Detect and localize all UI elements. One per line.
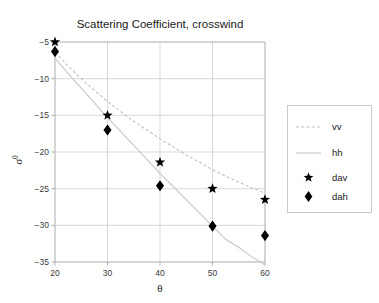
y-tick-label: −10 (35, 74, 50, 84)
y-tick-label: −5 (39, 37, 49, 47)
x-tick-label: 60 (260, 268, 270, 278)
legend-label-hh: hh (332, 147, 343, 158)
x-tick-label: 30 (103, 268, 113, 278)
y-tick-label: −30 (35, 220, 50, 230)
legend-box (288, 106, 372, 213)
legend: vvhhdavdah (288, 106, 372, 213)
legend-label-dah: dah (332, 191, 348, 202)
scattering-coefficient-chart: Scattering Coefficient, crosswind −5−10−… (0, 0, 379, 303)
y-tick-label: −15 (35, 110, 50, 120)
legend-label-vv: vv (332, 121, 342, 132)
legend-label-dav: dav (332, 172, 348, 183)
y-tick-label: −35 (35, 257, 50, 267)
y-axis-label-superscript: 0 (11, 155, 20, 159)
x-tick-label: 50 (208, 268, 218, 278)
y-tick-label: −20 (35, 147, 50, 157)
x-tick-label: 40 (155, 268, 165, 278)
x-axis-label: θ (157, 282, 162, 294)
x-tick-label: 20 (50, 268, 60, 278)
y-tick-label: −25 (35, 184, 50, 194)
figure-canvas: Scattering Coefficient, crosswind −5−10−… (0, 0, 379, 303)
chart-title: Scattering Coefficient, crosswind (77, 18, 244, 30)
